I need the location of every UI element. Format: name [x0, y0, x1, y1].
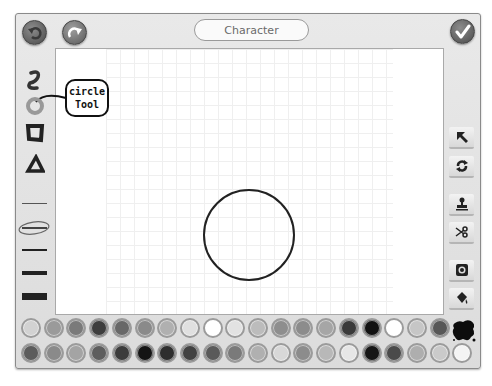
color-swatch[interactable]	[89, 318, 109, 338]
color-swatch[interactable]	[339, 318, 359, 338]
square-tool-icon	[25, 123, 45, 143]
ink-blot-icon[interactable]	[451, 318, 477, 344]
color-swatch[interactable]	[112, 318, 132, 338]
rectangle-tool[interactable]	[24, 122, 46, 144]
color-swatch[interactable]	[21, 343, 41, 363]
color-swatch[interactable]	[135, 318, 155, 338]
rotate-button[interactable]	[449, 156, 474, 178]
color-swatch[interactable]	[339, 343, 359, 363]
color-swatch[interactable]	[407, 343, 427, 363]
color-swatch[interactable]	[271, 318, 291, 338]
color-swatch[interactable]	[203, 343, 223, 363]
circle-tool-callout: circle Tool	[65, 79, 109, 117]
circle-tool-icon	[24, 95, 46, 117]
camera-button[interactable]	[449, 260, 474, 282]
triangle-tool[interactable]	[24, 153, 46, 175]
arrow-pointer-icon	[455, 130, 469, 144]
squiggle-icon	[26, 69, 44, 91]
color-swatch[interactable]	[316, 343, 336, 363]
triangle-tool-icon	[25, 154, 45, 174]
color-swatch[interactable]	[44, 343, 64, 363]
color-swatch[interactable]	[112, 343, 132, 363]
callout-line-1: circle	[69, 85, 105, 98]
color-swatch[interactable]	[21, 318, 41, 338]
color-swatch[interactable]	[362, 343, 382, 363]
select-button[interactable]	[449, 127, 474, 149]
line-width-1[interactable]	[22, 203, 47, 204]
cut-button[interactable]	[449, 222, 474, 244]
color-swatch[interactable]	[89, 343, 109, 363]
color-swatch[interactable]	[203, 318, 223, 338]
color-swatch[interactable]	[44, 318, 64, 338]
color-swatch[interactable]	[430, 318, 450, 338]
stamp-icon	[455, 197, 469, 211]
scissors-icon	[455, 225, 469, 239]
line-width-3[interactable]	[22, 249, 47, 251]
camera-icon	[455, 263, 469, 277]
paint-bucket-icon	[455, 291, 469, 305]
line-width-5[interactable]	[22, 293, 47, 300]
color-swatch[interactable]	[407, 318, 427, 338]
line-width-4[interactable]	[22, 271, 47, 275]
color-swatch[interactable]	[271, 343, 291, 363]
color-swatch[interactable]	[180, 318, 200, 338]
color-swatch[interactable]	[248, 318, 268, 338]
freehand-tool[interactable]	[24, 68, 46, 92]
color-swatch[interactable]	[135, 343, 155, 363]
color-swatch[interactable]	[316, 318, 336, 338]
stamp-button[interactable]	[449, 194, 474, 216]
line-width-2[interactable]	[22, 227, 47, 229]
color-swatch[interactable]	[430, 343, 450, 363]
callout-line-2: Tool	[75, 98, 99, 111]
color-swatch[interactable]	[362, 318, 382, 338]
fill-button[interactable]	[449, 288, 474, 310]
drawn-circle[interactable]	[204, 190, 294, 280]
color-swatch[interactable]	[248, 343, 268, 363]
rotate-icon	[455, 159, 469, 173]
circle-tool[interactable]	[23, 94, 47, 118]
color-swatch[interactable]	[180, 343, 200, 363]
